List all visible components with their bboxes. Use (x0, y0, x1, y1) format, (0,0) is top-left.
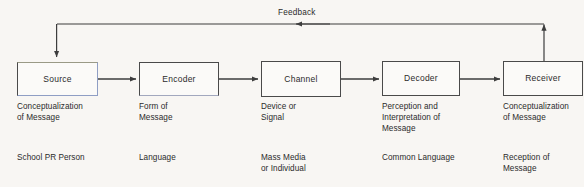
description-source: Conceptualization of Message (17, 101, 83, 123)
node-encoder[interactable]: Encoder (139, 62, 219, 96)
example-decoder: Common Language (382, 152, 455, 163)
example-receiver: Reception of Message (503, 152, 550, 174)
description-encoder: Form of Message (139, 101, 173, 123)
example-channel: Mass Media or Individual (261, 152, 306, 174)
node-source[interactable]: Source (17, 62, 98, 96)
description-channel: Device or Signal (261, 101, 296, 123)
node-receiver-label: Receiver (525, 74, 561, 83)
communication-process-diagram: Feedback Source Encoder Channel Decoder … (0, 0, 584, 187)
node-encoder-label: Encoder (162, 75, 195, 84)
node-channel[interactable]: Channel (261, 61, 341, 97)
node-decoder[interactable]: Decoder (382, 61, 460, 96)
node-decoder-label: Decoder (404, 74, 438, 83)
description-receiver: Conceptualization of Message (503, 101, 569, 123)
example-source: School PR Person (17, 152, 85, 163)
description-decoder: Perception and Interpretation of Message (382, 101, 440, 134)
example-encoder: Language (139, 152, 176, 163)
node-source-label: Source (43, 75, 71, 84)
feedback-label: Feedback (278, 9, 316, 17)
node-receiver[interactable]: Receiver (503, 61, 583, 96)
node-channel-label: Channel (284, 75, 317, 84)
